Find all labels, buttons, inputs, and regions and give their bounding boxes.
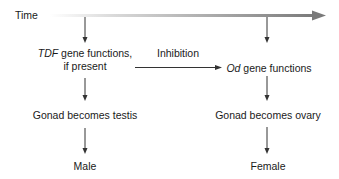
- arrow-testis-to-male: [83, 128, 88, 154]
- tdf-gene-label: TDF gene functions,: [38, 47, 133, 59]
- od-gene-text: gene functions: [240, 62, 311, 74]
- testis-label: Gonad becomes testis: [33, 109, 137, 121]
- male-label: Male: [74, 160, 97, 172]
- od-gene-label: Od gene functions: [226, 62, 311, 74]
- time-axis-arrow: [50, 11, 326, 21]
- arrow-time-to-tdf: [83, 17, 88, 43]
- female-label: Female: [250, 160, 285, 172]
- tdf-gene-text: gene functions,: [58, 47, 132, 59]
- tdf-gene-label-line2: if present: [63, 60, 106, 72]
- od-gene-name: Od: [226, 62, 240, 74]
- diagram-arrows: [0, 0, 339, 179]
- arrow-time-to-od: [265, 17, 270, 43]
- inhibition-arrow: [135, 65, 222, 70]
- arrow-tdf-to-testis: [83, 78, 88, 101]
- inhibition-label: Inhibition: [157, 47, 199, 59]
- tdf-gene-name: TDF: [38, 47, 58, 59]
- ovary-label: Gonad becomes ovary: [215, 109, 321, 121]
- arrow-ovary-to-female: [265, 127, 270, 154]
- time-label: Time: [15, 9, 38, 21]
- arrow-od-to-ovary: [265, 76, 270, 101]
